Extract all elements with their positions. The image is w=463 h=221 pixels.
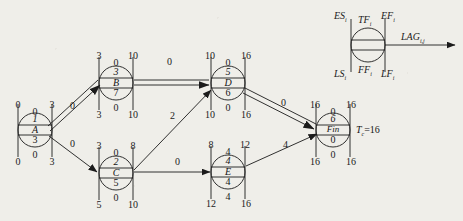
edge-label-E-Fin: 4 — [283, 139, 288, 150]
legend-lf-sub: i — [393, 75, 395, 81]
node-Fin-EF: 16 — [341, 99, 361, 110]
project-duration-label: Tc=16 — [356, 124, 380, 137]
legend-es-sub: i — [345, 17, 347, 23]
edge-C-D — [134, 90, 211, 170]
legend-lf-text: LF — [381, 68, 393, 79]
legend-lag-sub: i,j — [420, 38, 425, 44]
node-Fin-LF: 16 — [341, 156, 361, 167]
network-diagram-canvas: 1 A 3 0 0 3 0 0 3 3 B 7 3 0 10 3 0 10 2 … — [0, 0, 463, 221]
legend-es-text: ES — [334, 10, 345, 21]
node-D-duration: 6 — [218, 87, 238, 98]
node-E-LF: 16 — [236, 198, 256, 209]
node-D-EF: 16 — [236, 50, 256, 61]
node-C-EF: 8 — [123, 140, 143, 151]
node-A-LF: 3 — [42, 156, 62, 167]
edge-label-D-Fin: 0 — [281, 97, 286, 108]
legend-ef-sub: i — [393, 17, 395, 23]
legend-tf-sub: i — [370, 21, 372, 27]
legend-ff-text: FF — [358, 64, 370, 75]
tc-value: =16 — [364, 124, 380, 135]
node-D-TF: 0 — [218, 57, 238, 68]
edge-B-D — [134, 80, 209, 85]
node-C-LF: 10 — [123, 199, 143, 210]
legend-ls-label: LSi — [334, 68, 346, 81]
legend-tf-text: TF — [358, 14, 370, 25]
node-B-duration: 7 — [106, 87, 126, 98]
edge-label-B-D: 0 — [167, 56, 172, 67]
node-A-duration: 3 — [25, 134, 45, 145]
node-D-FF: 0 — [218, 102, 238, 113]
node-Fin-FF: 0 — [323, 149, 343, 160]
legend-ff-sub: i — [370, 71, 372, 77]
legend-ef-label: EFi — [381, 10, 395, 23]
node-E-FF: 4 — [218, 191, 238, 202]
legend-lag-text: LAG — [401, 31, 420, 42]
node-E-EF: 12 — [235, 139, 255, 150]
legend-ls-text: LS — [334, 68, 345, 79]
node-E-duration: 4 — [218, 176, 238, 187]
node-A-EF: 3 — [42, 99, 62, 110]
node-B-LF: 10 — [123, 109, 143, 120]
legend-tf-label: TFi — [358, 14, 371, 27]
node-D-LF: 16 — [236, 109, 256, 120]
node-Fin-label: Fin — [319, 124, 347, 134]
edge-label-C-E: 0 — [175, 156, 180, 167]
legend-ls-sub: i — [345, 75, 347, 81]
legend-lag-label: LAGi,j — [401, 31, 425, 44]
legend-es-label: ESi — [334, 10, 347, 23]
legend-lf-label: LFi — [381, 68, 394, 81]
node-Fin-TF: 0 — [323, 106, 343, 117]
edge-label-C-D: 2 — [170, 110, 175, 121]
legend-ef-text: EF — [381, 10, 393, 21]
edge-label-A-B: 0 — [70, 100, 75, 111]
edge-label-A-C: 0 — [70, 138, 75, 149]
node-B-EF: 10 — [123, 50, 143, 61]
node-C-duration: 5 — [106, 177, 126, 188]
node-Fin-duration: 0 — [323, 134, 343, 145]
legend-ff-label: FFi — [358, 64, 372, 77]
